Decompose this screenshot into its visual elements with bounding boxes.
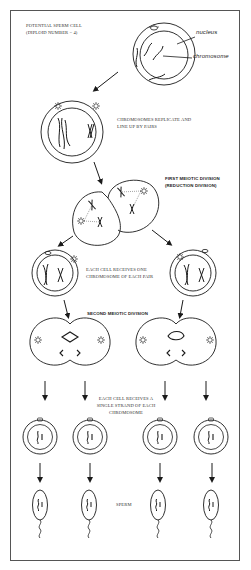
single-strand-label: EACH CELL RECEIVES A SINGLE STRAND OF EA… [92,395,160,416]
second-division-left [30,318,110,365]
potential-sperm-cell [133,23,195,85]
replicate-label: CHROMOSOMES REPLICATE AND LINE UP BY PAI… [117,116,191,130]
haploid-cell-3 [143,418,177,454]
label-line: (REDUCTION DIVISION) [165,182,220,189]
arrow [64,300,68,316]
meiosis-diagram [0,0,251,570]
sperm-2 [82,490,97,538]
sperm-label: SPERM [116,501,132,508]
arrows-to-sperm [40,463,212,480]
sperm-3 [151,490,166,538]
sperm-4 [204,490,219,538]
label-line: LINE UP BY PAIRS [117,123,191,130]
label-line: FIRST MEIOTIC DIVISION [165,175,220,182]
label-line: SINGLE STRAND OF EACH [92,402,160,409]
haploid-cell-2 [73,418,107,454]
chromosome-label: chromosome [193,53,229,60]
diagram-frame [11,11,240,561]
label-line: CHROMOSOMES REPLICATE AND [117,116,191,123]
each-cell-one-label: EACH CELL RECEIVES ONE CHROMOSOME OF EAC… [86,266,153,280]
label-line: POTENTIAL SPERM CELL [26,22,82,29]
daughter-cell-left [32,250,78,296]
first-division-label: FIRST MEIOTIC DIVISION (REDUCTION DIVISI… [165,175,220,189]
label-line: EACH CELL RECEIVES A [92,395,160,402]
arrow [180,300,183,316]
haploid-cell-1 [23,418,57,454]
replicated-chromosomes-cell [41,101,103,163]
arrow [60,236,73,245]
label-line: CHROMOSOME OF EACH PAIR [86,273,153,280]
daughter-cell-right [170,249,216,296]
first-meiotic-division [73,180,159,245]
sperm-1 [33,490,48,538]
second-division-right [136,318,216,365]
arrow [94,162,101,182]
nucleus-label: nucleus [196,29,217,36]
label-line: EACH CELL RECEIVES ONE [86,266,153,273]
arrow [95,72,118,90]
label-line: CHROMOSOME [92,409,160,416]
second-division-label: SECOND MEIOTIC DIVISION [87,310,148,317]
label-line: (DIPLOID NUMBER = 4) [26,29,82,36]
arrow [152,230,170,244]
haploid-cell-4 [194,418,228,454]
potential-cell-label: POTENTIAL SPERM CELL (DIPLOID NUMBER = 4… [26,22,82,36]
